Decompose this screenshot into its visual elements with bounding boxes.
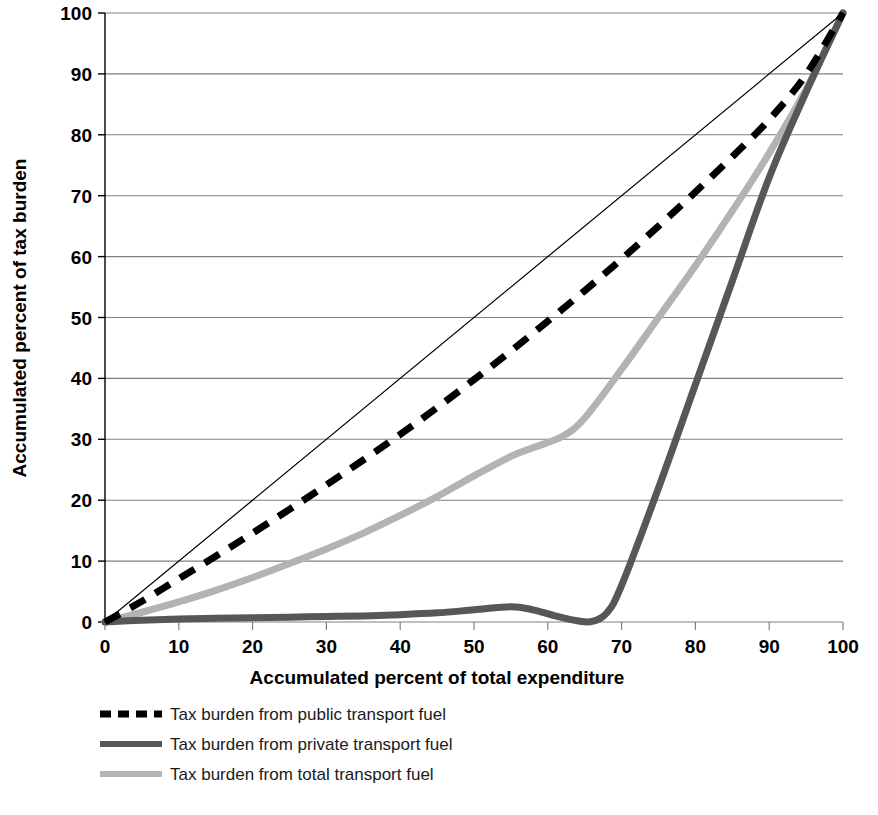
y-tick-label-80: 80 [71, 125, 92, 146]
y-tick-label-20: 20 [71, 490, 92, 511]
x-tick-label-70: 70 [611, 636, 632, 657]
x-tick-label-10: 10 [168, 636, 189, 657]
y-tick-label-60: 60 [71, 247, 92, 268]
y-axis-title: Accumulated percent of tax burden [9, 159, 30, 478]
y-tick-label-70: 70 [71, 186, 92, 207]
x-tick-label-50: 50 [463, 636, 484, 657]
y-tick-label-10: 10 [71, 551, 92, 572]
chart-background [0, 0, 878, 815]
y-tick-label-100: 100 [60, 3, 92, 24]
legend-label-0: Tax burden from public transport fuel [170, 705, 446, 724]
x-axis-title: Accumulated percent of total expenditure [250, 667, 625, 688]
x-tick-label-60: 60 [537, 636, 558, 657]
x-tick-label-20: 20 [242, 636, 263, 657]
x-tick-label-100: 100 [827, 636, 859, 657]
x-tick-label-0: 0 [100, 636, 111, 657]
y-tick-label-50: 50 [71, 308, 92, 329]
legend-label-1: Tax burden from private transport fuel [170, 735, 453, 754]
y-tick-label-30: 30 [71, 429, 92, 450]
legend-label-2: Tax burden from total transport fuel [170, 765, 434, 784]
x-tick-label-30: 30 [316, 636, 337, 657]
chart-container: 0102030405060708090100 01020304050607080… [0, 0, 878, 815]
y-tick-label-90: 90 [71, 64, 92, 85]
x-tick-label-40: 40 [390, 636, 411, 657]
lorenz-curve-chart: 0102030405060708090100 01020304050607080… [0, 0, 878, 815]
y-tick-label-0: 0 [81, 612, 92, 633]
x-tick-label-80: 80 [685, 636, 706, 657]
x-tick-label-90: 90 [759, 636, 780, 657]
y-tick-label-40: 40 [71, 368, 92, 389]
